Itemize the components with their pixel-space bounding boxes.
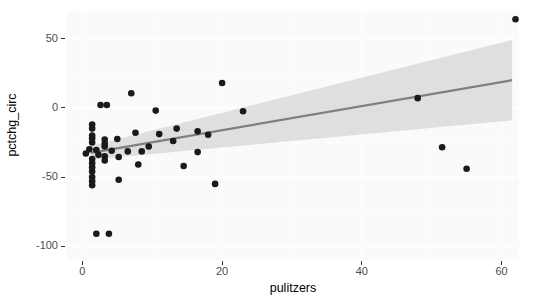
data-point — [145, 143, 152, 150]
data-point — [463, 165, 470, 172]
data-point — [115, 176, 122, 183]
data-point — [101, 157, 108, 164]
x-tick-label: 40 — [342, 265, 382, 277]
chart-root: pctchg_circ 500-50-100 0204060 pulitzers — [0, 0, 552, 301]
data-point — [156, 131, 163, 138]
y-tick-label: 0 — [22, 101, 58, 113]
x-tick-mark — [501, 261, 502, 265]
x-tick-mark — [82, 261, 83, 265]
data-point — [97, 102, 104, 109]
data-point — [212, 181, 219, 188]
data-point — [512, 16, 519, 23]
data-point — [138, 148, 145, 155]
y-tick-mark — [61, 177, 65, 178]
x-tick-mark — [222, 261, 223, 265]
plot-svg — [67, 11, 519, 260]
data-point — [170, 138, 177, 145]
data-point — [240, 108, 247, 115]
data-point — [115, 154, 122, 161]
data-point — [439, 144, 446, 151]
data-point — [152, 107, 159, 114]
y-tick-label: -100 — [22, 239, 58, 251]
data-point — [194, 149, 201, 156]
data-point — [414, 95, 421, 102]
data-point — [205, 132, 212, 139]
y-axis-title: pctchg_circ — [2, 0, 22, 249]
y-tick-label: -50 — [22, 170, 58, 182]
data-point — [89, 125, 96, 132]
y-tick-mark — [61, 38, 65, 39]
data-point — [114, 136, 121, 143]
x-tick-mark — [361, 261, 362, 265]
data-point — [93, 230, 100, 237]
y-tick-mark — [61, 107, 65, 108]
x-tick-label: 20 — [202, 265, 242, 277]
y-tick-mark — [61, 246, 65, 247]
data-point — [194, 128, 201, 135]
data-point — [180, 163, 187, 170]
data-point — [95, 152, 102, 159]
data-point — [89, 139, 96, 146]
data-point — [128, 90, 135, 97]
data-point — [104, 102, 111, 109]
y-axis-title-label: pctchg_circ — [5, 93, 19, 156]
data-point — [89, 182, 96, 189]
x-tick-label: 0 — [62, 265, 102, 277]
data-point — [83, 150, 90, 157]
data-point — [132, 129, 139, 136]
y-tick-label: 50 — [22, 32, 58, 44]
data-point — [219, 80, 226, 87]
x-tick-label: 60 — [482, 265, 522, 277]
plot-panel — [67, 11, 519, 260]
data-point — [108, 147, 115, 154]
data-point — [106, 230, 113, 237]
data-point — [173, 125, 180, 132]
data-point — [101, 143, 108, 150]
data-point — [124, 148, 131, 155]
data-point — [135, 161, 142, 168]
x-axis-title: pulitzers — [67, 281, 519, 295]
